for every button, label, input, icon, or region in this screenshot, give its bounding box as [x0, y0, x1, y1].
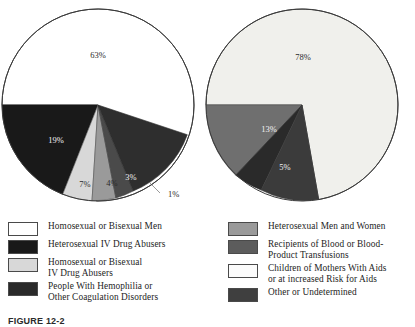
pie-label-1: 1% [168, 189, 179, 199]
legend-label: Other or Undetermined [268, 287, 357, 298]
legend-label: Children of Mothers With Aids or at incr… [268, 263, 387, 284]
pie-label-78: 78% [295, 52, 311, 62]
legend-label-line1: People With Hemophilia or [48, 281, 152, 291]
pie-chart-children: 78% 13% 5% [206, 9, 398, 201]
legend-item: Homosexual or Bisexual IV Drug Abusers [8, 257, 208, 278]
legend-label-line1: Heterosexual Men and Women [268, 221, 386, 231]
legend-label: People With Hemophilia or Other Coagulat… [48, 281, 158, 302]
legend-swatch-icon [228, 288, 258, 302]
legend-label-line1: Other or Undetermined [268, 287, 357, 297]
pie-label-63: 63% [90, 50, 106, 60]
legend-label-line1: Homosexual or Bisexual [48, 257, 142, 267]
legend-label-line2: Product Transfusions [268, 250, 383, 261]
legend-label: Heterosexual Men and Women [268, 221, 386, 232]
pie-chart-adults: 63% 19% 7% 4% 3% 1% [2, 9, 194, 201]
legend-label: Homosexual or Bisexual IV Drug Abusers [48, 257, 142, 278]
legend-item: People With Hemophilia or Other Coagulat… [8, 281, 208, 302]
pie-leader-line-1pct [150, 183, 160, 193]
legend-item: Heterosexual IV Drug Abusers [8, 239, 208, 254]
pie-charts-svg: 63% 19% 7% 4% 3% 1% 78% 13% [0, 0, 415, 220]
legend-left: Homosexual or Bisexual Men Heterosexual … [8, 221, 208, 305]
legend-right: Heterosexual Men and Women Recipients of… [228, 221, 415, 305]
legend-item: Homosexual or Bisexual Men [8, 221, 208, 236]
pie-label-5: 5% [279, 162, 290, 172]
legends: Homosexual or Bisexual Men Heterosexual … [0, 221, 415, 327]
legend-label: Recipients of Blood or Blood- Product Tr… [268, 239, 383, 260]
legend-label-line2: IV Drug Abusers [48, 268, 142, 279]
legend-swatch-icon [228, 264, 258, 278]
legend-swatch-icon [8, 222, 38, 236]
legend-label: Homosexual or Bisexual Men [48, 221, 162, 232]
legend-item: Recipients of Blood or Blood- Product Tr… [228, 239, 415, 260]
legend-item: Children of Mothers With Aids or at incr… [228, 263, 415, 284]
legend-swatch-icon [228, 222, 258, 236]
pie-label-3: 3% [125, 172, 136, 182]
legend-swatch-icon [8, 240, 38, 254]
pie-label-13: 13% [261, 124, 277, 134]
legend-label-line1: Heterosexual IV Drug Abusers [48, 239, 166, 249]
legend-swatch-icon [8, 258, 38, 272]
figure-root: 63% 19% 7% 4% 3% 1% 78% 13% [0, 0, 415, 327]
legend-label-line1: Children of Mothers With Aids [268, 263, 387, 273]
legend-label-line2: or at increased Risk for Aids [268, 274, 387, 285]
legend-label-line1: Homosexual or Bisexual Men [48, 221, 162, 231]
legend-swatch-icon [8, 282, 38, 296]
figure-caption: FIGURE 12-2 [8, 316, 65, 327]
legend-item: Heterosexual Men and Women [228, 221, 415, 236]
legend-item: Other or Undetermined [228, 287, 415, 302]
legend-swatch-icon [228, 240, 258, 254]
pie-label-7: 7% [79, 179, 90, 189]
pie-label-19: 19% [48, 135, 64, 145]
pie-label-4: 4% [106, 178, 117, 188]
pie-charts-area: 63% 19% 7% 4% 3% 1% 78% 13% [0, 0, 415, 220]
legend-label: Heterosexual IV Drug Abusers [48, 239, 166, 250]
legend-label-line1: Recipients of Blood or Blood- [268, 239, 383, 249]
legend-label-line2: Other Coagulation Disorders [48, 292, 158, 303]
